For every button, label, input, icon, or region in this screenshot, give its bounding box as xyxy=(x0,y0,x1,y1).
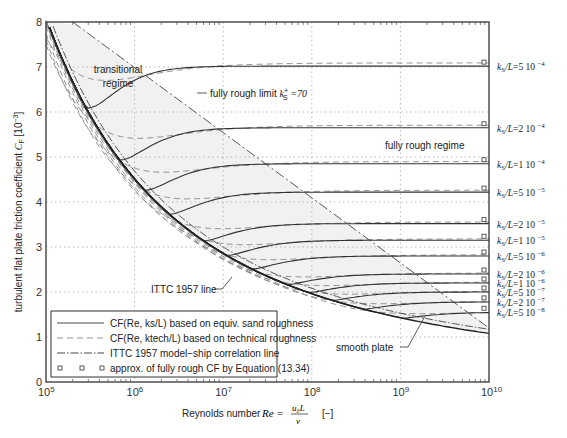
fully-rough-marker xyxy=(482,158,486,162)
legend-label: ITTC 1957 model−ship correlation line xyxy=(110,348,280,359)
series-label: kS/L=5 10 −6 xyxy=(497,250,545,264)
annotation-smooth-plate: smooth plate xyxy=(336,342,394,353)
y-tick-label: 2 xyxy=(36,286,42,298)
fully-rough-marker xyxy=(482,306,486,310)
legend-marker xyxy=(80,366,84,370)
annotation-ittc-line: ITTC 1957 line xyxy=(151,284,217,295)
x-tick-label: 1010 xyxy=(481,385,503,398)
y-axis-title: turbulent flat plate friction coefficien… xyxy=(12,112,25,313)
legend-marker xyxy=(100,366,104,370)
fully-rough-marker xyxy=(482,234,486,238)
x-tick-label: 106 xyxy=(127,385,144,398)
fully-rough-marker xyxy=(482,60,486,64)
annotation-transitional: transitional xyxy=(94,64,142,75)
series-label: kS/L=1 10 −4 xyxy=(497,158,545,172)
series-label: kS/L=1 10 −5 xyxy=(497,234,545,248)
x-tick-label: 109 xyxy=(392,385,409,398)
legend-label: CF(Re, ks/L) based on equiv. sand roughn… xyxy=(110,318,313,329)
y-tick-label: 7 xyxy=(36,61,42,73)
fully-rough-marker xyxy=(482,122,486,126)
series-label: kS/L=5 10 −4 xyxy=(497,60,545,74)
y-tick-label: 4 xyxy=(36,196,42,208)
friction-coefficient-chart: kS/L=5 10 −4kS/L=2 10 −4kS/L=1 10 −4kS/L… xyxy=(0,0,567,438)
formula-denominator: ν xyxy=(296,416,300,426)
x-axis-title: Reynolds number xyxy=(182,408,261,419)
formula-numerator: u₀L xyxy=(292,403,305,413)
fully-rough-marker xyxy=(482,277,486,281)
annotation-fully-rough-regime: fully rough regime xyxy=(385,140,465,151)
annotation-fully-rough-limit: fully rough limit k+S =70 xyxy=(210,87,307,101)
y-tick-label: 1 xyxy=(36,331,42,343)
y-tick-label: 5 xyxy=(36,151,42,163)
x-tick-label: 107 xyxy=(215,385,232,398)
x-axis-formula: Re = xyxy=(261,407,284,419)
y-tick-label: 3 xyxy=(36,241,42,253)
series-label: kS/L=2 10 −4 xyxy=(497,122,545,136)
series-label: kS/L=2 10 −5 xyxy=(497,218,545,232)
annotation-transitional: regime xyxy=(103,78,134,89)
legend-marker xyxy=(58,366,62,370)
legend-label: CF(Re, ktech/L) based on technical rough… xyxy=(110,333,316,344)
legend-label: approx. of fully rough CF by Equation (1… xyxy=(110,363,310,374)
fully-rough-marker xyxy=(482,186,486,190)
fully-rough-marker xyxy=(482,218,486,222)
fully-rough-marker xyxy=(482,286,486,290)
series-label: kS/L=5 10 −8 xyxy=(497,306,545,320)
fully-rough-marker xyxy=(482,268,486,272)
y-tick-label: 6 xyxy=(36,106,42,118)
series-label: kS/L=5 10 −5 xyxy=(497,186,545,200)
legend: CF(Re, ks/L) based on equiv. sand roughn… xyxy=(51,311,316,377)
fully-rough-marker xyxy=(482,296,486,300)
y-tick-label: 8 xyxy=(36,16,42,28)
fully-rough-marker xyxy=(482,250,486,254)
x-axis-unit: [−] xyxy=(322,408,334,419)
x-tick-label: 108 xyxy=(304,385,321,398)
y-tick-label: 0 xyxy=(36,376,42,388)
